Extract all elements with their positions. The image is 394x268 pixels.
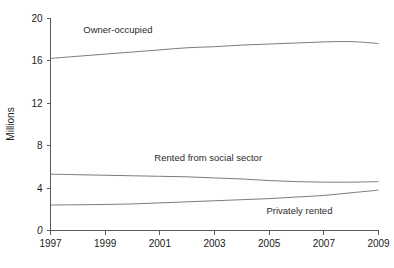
y-axis-title: Millions — [5, 107, 16, 140]
y-tick-label: 20 — [31, 13, 43, 24]
x-tick-label: 2001 — [149, 238, 172, 249]
series-line — [51, 190, 379, 205]
series-lines-group — [51, 41, 379, 205]
x-axis-ticks — [51, 231, 379, 235]
y-axis-group: 048121620 Millions — [5, 13, 51, 237]
series-inline-label: Privately rented — [266, 205, 332, 216]
series-inline-label: Owner-occupied — [83, 24, 152, 35]
x-tick-label: 2007 — [313, 238, 336, 249]
x-tick-label: 2005 — [258, 238, 281, 249]
y-tick-label: 0 — [37, 225, 43, 236]
y-tick-label: 8 — [37, 140, 43, 151]
series-inline-label: Rented from social sector — [154, 152, 262, 163]
y-axis-ticks — [47, 18, 51, 231]
x-tick-label: 1997 — [39, 238, 62, 249]
series-line — [51, 41, 379, 58]
y-tick-label: 16 — [31, 55, 43, 66]
y-tick-label: 12 — [31, 98, 43, 109]
x-tick-label: 2003 — [203, 238, 226, 249]
x-axis-tick-labels: 1997199920012003200520072009 — [39, 238, 390, 249]
x-tick-label: 1999 — [94, 238, 117, 249]
x-tick-label: 2009 — [367, 238, 390, 249]
x-axis-group: 1997199920012003200520072009 — [39, 231, 390, 249]
y-axis-tick-labels: 048121620 — [31, 13, 43, 237]
series-line — [51, 174, 379, 182]
figure-caption — [0, 259, 394, 268]
y-tick-label: 4 — [37, 183, 43, 194]
housing-tenure-line-chart: 048121620 Millions 199719992001200320052… — [0, 0, 394, 268]
chart-figure: 048121620 Millions 199719992001200320052… — [0, 0, 394, 268]
